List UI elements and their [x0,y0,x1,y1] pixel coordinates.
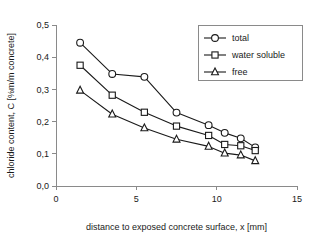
data-point-free-0 [77,86,84,93]
data-point-water-soluble-5 [222,141,228,147]
legend-marker-circle-icon [212,35,219,42]
data-point-water-soluble-2 [141,109,147,115]
data-point-total-5 [221,129,228,136]
chart-figure: 0,00,10,20,30,40,5051015distance to expo… [0,0,318,238]
data-point-water-soluble-7 [252,147,258,153]
y-tick-label-4: 0,4 [36,52,49,62]
data-point-water-soluble-6 [238,143,244,149]
x-tick-label-0: 0 [53,194,58,204]
data-point-total-0 [77,39,84,46]
data-point-total-1 [109,71,116,78]
legend-marker-square-icon [212,52,218,58]
y-tick-label-5: 0,5 [36,20,49,30]
data-point-water-soluble-0 [77,62,83,68]
y-axis-title: chloride content, C [%m/m concrete] [6,33,16,178]
data-point-total-2 [141,73,148,80]
y-tick-label-1: 0,1 [36,149,49,159]
data-point-free-1 [109,110,116,117]
x-axis-title: distance to exposed concrete surface, x … [86,222,267,232]
legend-label-1: water soluble [231,50,285,60]
x-tick-label-3: 15 [292,194,302,204]
data-point-water-soluble-3 [173,123,179,129]
x-tick-label-1: 5 [134,194,139,204]
data-point-total-3 [173,109,180,116]
y-tick-label-3: 0,3 [36,85,49,95]
legend-label-0: total [232,33,249,43]
data-point-water-soluble-4 [206,132,212,138]
chart-canvas: 0,00,10,20,30,40,5051015distance to expo… [0,0,318,238]
data-point-total-6 [237,135,244,142]
y-tick-label-0: 0,0 [36,181,49,191]
data-point-water-soluble-1 [109,92,115,98]
x-tick-label-2: 10 [212,194,222,204]
legend-label-2: free [232,67,248,77]
data-point-total-4 [205,122,212,129]
series-line-free [80,90,255,161]
y-tick-label-2: 0,2 [36,117,49,127]
